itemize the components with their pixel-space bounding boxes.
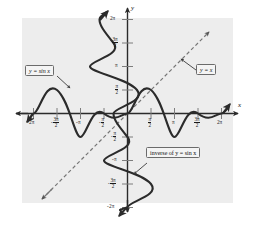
leader-line-sine <box>57 76 70 88</box>
y-tick-label-3pi-over-2: 3π2 <box>112 37 118 49</box>
leader-line-identity <box>181 59 196 70</box>
y-tick-label-neg-2pi: -2π <box>107 204 114 209</box>
line-y-equals-x <box>42 32 209 199</box>
callout-sine-text: y = sin x <box>29 68 50 74</box>
y-tick-label-pi: π <box>115 63 118 68</box>
curve-sine-right-arrow <box>223 104 230 113</box>
graph-canvas <box>0 0 256 230</box>
x-tick-label-neg-pi: -π <box>76 120 81 125</box>
x-tick-label-3pi-over-2: 3π2 <box>194 117 200 129</box>
curve-sine <box>29 88 229 137</box>
callout-inverse-of-y-equals-sin-x: inverse of y = sin x <box>146 147 200 158</box>
x-tick-label-neg-2pi: -2π <box>27 120 34 125</box>
figure-sine-inverse-graph: x y -2π -3π2 -π -π2 π2 π 3π2 2π 2π 3π2 π… <box>0 0 256 230</box>
x-tick-label-neg-3pi-over-2: -3π2 <box>51 117 59 129</box>
y-tick-label-pi-over-2: π2 <box>115 84 118 96</box>
x-tick-label-pi-over-2: π2 <box>148 117 151 129</box>
line-y-equals-x-lower-arrow <box>42 189 52 199</box>
x-axis-label: x <box>238 101 241 109</box>
callout-y-equals-sin-x: y = sin x <box>25 65 54 76</box>
y-tick-label-neg-pi-over-2: -π2 <box>111 131 116 143</box>
y-tick-label-neg-3pi-over-2: -3π2 <box>108 178 116 190</box>
leader-line-inverse <box>134 163 147 174</box>
y-tick-label-2pi: 2π <box>110 16 115 21</box>
callout-inverse-text: inverse of y = sin x <box>150 150 196 156</box>
callout-y-equals-x: y = x <box>196 64 216 75</box>
y-tick-label-neg-pi: -π <box>112 157 117 162</box>
x-tick-label-pi: π <box>172 120 175 125</box>
x-tick-label-neg-pi-over-2: -π2 <box>99 117 104 129</box>
callout-identity-text: y = x <box>200 67 212 73</box>
y-axis-label: y <box>131 4 134 12</box>
x-tick-label-2pi: 2π <box>217 120 222 125</box>
